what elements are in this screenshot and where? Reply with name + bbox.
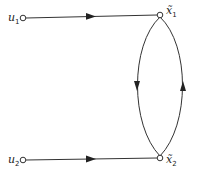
edge-x2-x1-right-arc bbox=[160, 17, 183, 156]
node-x2 bbox=[157, 155, 163, 161]
label-u2: u2 bbox=[8, 153, 20, 168]
arrow-u2-x2 bbox=[86, 156, 96, 163]
node-u2 bbox=[20, 157, 26, 163]
arrow-u1-x1 bbox=[86, 13, 96, 20]
arrow-x1-x2 bbox=[134, 81, 140, 91]
label-u1: u1 bbox=[8, 11, 20, 26]
signal-flow-graph: u1 u2 x̃1 x̃2 bbox=[0, 0, 197, 174]
arrow-x2-x1 bbox=[180, 81, 186, 91]
node-u1 bbox=[20, 15, 26, 21]
label-x1: x̃1 bbox=[166, 4, 177, 19]
edge-x1-x2-left-arc bbox=[138, 17, 161, 156]
node-x1 bbox=[157, 12, 163, 18]
label-x2: x̃2 bbox=[166, 153, 177, 168]
